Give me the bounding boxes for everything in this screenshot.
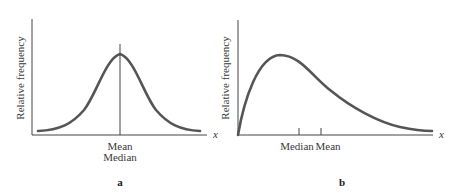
y-axis-label-b: Relative frequency [219,36,231,120]
panel-label-b: b [339,176,345,188]
x-axis-label-b: x [438,128,444,140]
skewed-curve [238,55,432,135]
y-axis-label-a: Relative frequency [14,36,26,120]
bell-curve [38,54,200,131]
figure: x Relative frequency Mean Median a x Rel… [0,0,456,196]
mean-label-b: Mean [315,140,341,152]
panel-label-a: a [117,176,123,188]
panel-a: x Relative frequency Mean Median a [14,19,218,188]
median-label-a: Median [103,151,137,163]
median-label-b: Median [280,140,314,152]
panel-b: x Relative frequency Median Mean b [219,20,444,188]
x-axis-label-a: x [212,128,218,140]
